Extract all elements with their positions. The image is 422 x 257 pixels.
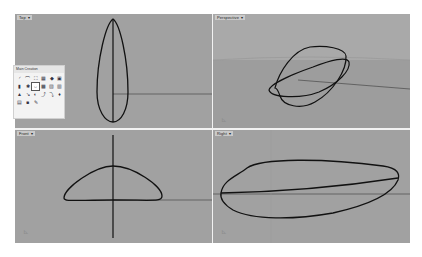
tool-button-revolve[interactable]: ◐ — [32, 91, 39, 98]
tool-button-point[interactable]: ♦ — [56, 91, 63, 98]
tool-button-surface[interactable]: ▦ — [40, 75, 47, 82]
tool-button-gear[interactable]: ✱ — [24, 83, 31, 90]
leaf-midrib-right — [221, 178, 398, 193]
creation-toolbar-panel[interactable]: Main Creation ◜⌒⛶▦◆▣▮✱⇔▩▧▥▲↘◐⤴⤵♦▤■✎ — [13, 65, 65, 119]
leaf-curve-3d-b — [269, 59, 349, 97]
blend-icon: ⤵ — [49, 91, 54, 98]
tool-button-curve[interactable]: ⌒ — [24, 75, 31, 82]
arc-icon: ◜ — [19, 75, 21, 82]
render-icon: ▤ — [17, 99, 22, 106]
tool-button-cylinder[interactable]: ▥ — [56, 83, 63, 90]
viewport-label-perspective[interactable]: Perspective▾ — [215, 15, 245, 20]
axis-widget-icon: ⊾ — [23, 228, 29, 235]
tool-button-solid[interactable]: ▧ — [48, 83, 55, 90]
extrude-icon: ◆ — [50, 75, 54, 82]
fillet-icon: ⤴ — [41, 91, 46, 98]
perspective-view-canvas: ⊾ — [213, 14, 410, 128]
viewport-perspective[interactable]: ⊾ Perspective▾ — [213, 14, 410, 128]
tool-button-loft[interactable]: ⛶ — [32, 75, 39, 82]
revolve-icon: ◐ — [34, 91, 37, 98]
viewport-title: Front — [19, 131, 29, 136]
tool-button-patch[interactable]: ▣ — [56, 75, 63, 82]
pen-icon: ✎ — [34, 99, 38, 106]
x-axis-line — [298, 80, 410, 89]
mesh-icon: ▩ — [41, 83, 46, 90]
curve-icon: ⌒ — [25, 75, 30, 82]
viewport-title: Top — [19, 15, 26, 20]
tool-grid: ◜⌒⛶▦◆▣▮✱⇔▩▧▥▲↘◐⤴⤵♦▤■✎ — [14, 73, 64, 108]
solid-icon: ▧ — [49, 83, 54, 90]
viewport-title: Right — [217, 131, 227, 136]
sweep-icon: ⇔ — [33, 83, 38, 90]
box-icon: ▮ — [18, 83, 21, 90]
cylinder-icon: ▥ — [57, 83, 62, 90]
viewport-label-top[interactable]: Top▾ — [17, 15, 32, 20]
pipe-icon: ↘ — [26, 91, 30, 98]
tool-button-render[interactable]: ▤ — [16, 99, 23, 106]
material-icon: ■ — [26, 99, 29, 106]
tool-button-box[interactable]: ▮ — [16, 83, 23, 90]
cone-icon: ▲ — [17, 91, 22, 98]
viewport-front[interactable]: ⊾ Front▾ — [15, 130, 212, 243]
tool-button-extrude[interactable]: ◆ — [48, 75, 55, 82]
tool-button-arc[interactable]: ◜ — [16, 75, 23, 82]
right-view-canvas: ⊾ — [213, 130, 410, 243]
leaf-curve-3d-a — [275, 46, 346, 106]
toolbar-title[interactable]: Main Creation — [14, 66, 64, 73]
patch-icon: ▣ — [57, 75, 62, 82]
tool-button-cone[interactable]: ▲ — [16, 91, 23, 98]
viewport-right[interactable]: ⊾ Right▾ — [213, 130, 410, 243]
gear-icon: ✱ — [26, 83, 30, 90]
tool-button-mesh[interactable]: ▩ — [40, 83, 47, 90]
horizon-line — [213, 57, 410, 60]
viewport-title: Perspective — [217, 15, 239, 20]
chevron-down-icon: ▾ — [31, 131, 33, 136]
surface-icon: ▦ — [41, 75, 46, 82]
chevron-down-icon: ▾ — [241, 15, 243, 20]
tool-button-fillet[interactable]: ⤴ — [40, 91, 47, 98]
chevron-down-icon: ▾ — [28, 15, 30, 20]
tool-button-sweep[interactable]: ⇔ — [32, 83, 39, 90]
tool-button-material[interactable]: ■ — [24, 99, 31, 106]
front-view-canvas: ⊾ — [15, 130, 212, 243]
viewport-label-right[interactable]: Right▾ — [215, 131, 233, 136]
viewport-workspace: Top▾ ⊾ Perspective▾ ⊾ Front▾ — [15, 14, 410, 243]
viewport-label-front[interactable]: Front▾ — [17, 131, 35, 136]
point-icon: ♦ — [58, 91, 61, 98]
tool-button-pen[interactable]: ✎ — [32, 99, 39, 106]
axis-widget-icon: ⊾ — [221, 228, 227, 235]
chevron-down-icon: ▾ — [229, 131, 231, 136]
tool-button-pipe[interactable]: ↘ — [24, 91, 31, 98]
axis-widget-icon: ⊾ — [221, 116, 227, 123]
loft-icon: ⛶ — [34, 75, 38, 82]
tool-button-blend[interactable]: ⤵ — [48, 91, 55, 98]
